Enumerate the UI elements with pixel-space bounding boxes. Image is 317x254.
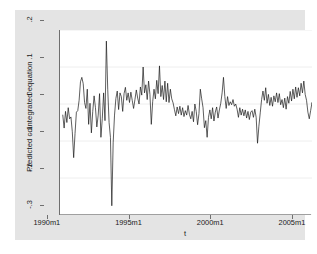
y-tick-mark (40, 94, 44, 95)
y-tick-mark (40, 168, 44, 169)
x-tick-label: 1990m1 (24, 218, 70, 227)
chart-screenshot: Predicted cointegrated equation .2.10-.1… (0, 0, 317, 254)
gridlines (60, 30, 312, 215)
y-tick-mark (40, 205, 44, 206)
y-tick-mark (40, 20, 44, 21)
y-tick-mark (40, 57, 44, 58)
x-tick-label: 2005m1 (269, 218, 315, 227)
graph-region: Predicted cointegrated equation .2.10-.1… (15, 10, 305, 240)
x-tick-label: 1995m1 (106, 218, 152, 227)
y-tick-label: -.2 (25, 157, 34, 179)
y-tick-mark (40, 131, 44, 132)
data-line-series (63, 41, 312, 206)
y-axis-title-wrap: Predicted cointegrated equation (35, 20, 53, 220)
y-tick-label: -.3 (25, 194, 34, 216)
plot-area (59, 30, 311, 215)
y-tick-label: .2 (25, 9, 34, 31)
y-tick-label: -.1 (25, 120, 34, 142)
plot-svg (60, 30, 312, 215)
x-tick-label: 2000m1 (187, 218, 233, 227)
x-axis-title: t (59, 229, 311, 238)
y-tick-label: 0 (25, 83, 34, 105)
y-tick-label: .1 (25, 46, 34, 68)
